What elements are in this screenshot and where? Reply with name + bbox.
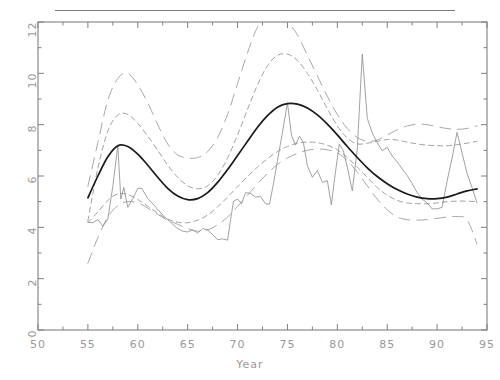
plot-frame — [38, 22, 487, 330]
x-tick-label: 80 — [317, 338, 357, 351]
x-tick-label: 95 — [467, 338, 500, 351]
plot-canvas — [0, 0, 500, 380]
series-inner-band-lower — [88, 142, 477, 223]
chart-figure: 024681012 50556065707580859095 Year — [0, 0, 500, 380]
x-tick-label: 90 — [417, 338, 457, 351]
x-tick-label: 70 — [218, 338, 258, 351]
series-outer-band-lower — [88, 149, 477, 263]
y-tick-label: 12 — [26, 22, 39, 50]
series-smooth-trend — [88, 103, 477, 199]
series-outer-band-upper — [88, 15, 477, 186]
x-tick-label: 75 — [267, 338, 307, 351]
y-tick-label: 8 — [26, 124, 39, 152]
x-tick-label: 50 — [18, 338, 58, 351]
series-observed-data — [88, 54, 477, 240]
y-tick-label: 10 — [26, 73, 39, 101]
x-tick-label: 85 — [367, 338, 407, 351]
x-tick-label: 60 — [118, 338, 158, 351]
x-tick-label: 65 — [168, 338, 208, 351]
y-tick-label: 4 — [26, 227, 39, 255]
x-axis-title: Year — [0, 358, 500, 371]
y-tick-label: 6 — [26, 176, 39, 204]
x-tick-label: 55 — [68, 338, 108, 351]
y-tick-label: 2 — [26, 278, 39, 306]
